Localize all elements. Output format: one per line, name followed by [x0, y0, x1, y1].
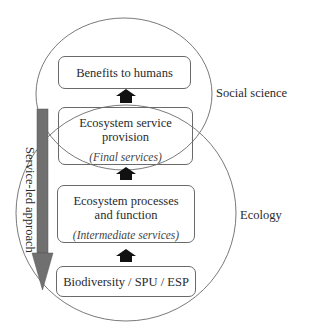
box-sublabel: (Final services)	[59, 150, 192, 164]
box-biodiversity: Biodiversity / SPU / ESP	[56, 266, 196, 297]
box-ecosystem-processes: Ecosystem processes and function (Interm…	[57, 185, 195, 243]
label-ecology: Ecology	[240, 208, 282, 223]
box-label-line2: provision	[59, 130, 192, 144]
label-service-led-approach: Service-led approach	[22, 147, 37, 253]
box-label: Biodiversity / SPU / ESP	[57, 275, 195, 289]
label-social-science: Social science	[216, 86, 287, 101]
box-ecosystem-service-provision: Ecosystem service provision (Final servi…	[58, 107, 193, 165]
box-label: Benefits to humans	[59, 66, 190, 80]
box-label-line1: Ecosystem processes	[58, 194, 194, 208]
box-label-line2: and function	[58, 208, 194, 222]
arrow-up-icon	[116, 249, 136, 262]
box-sublabel: (Intermediate services)	[58, 228, 194, 242]
arrow-up-icon	[116, 89, 136, 103]
box-benefits-to-humans: Benefits to humans	[58, 56, 191, 89]
arrow-up-icon	[116, 167, 136, 180]
box-label-line1: Ecosystem service	[59, 116, 192, 130]
